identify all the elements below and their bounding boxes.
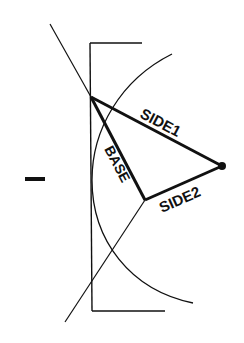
lower-extension-line [65,200,145,322]
triangle-geometry-diagram: SIDE1 SIDE2 BASE [0,0,244,343]
upper-extension-line [50,24,91,97]
side2-label: SIDE2 [156,183,203,216]
tip-dot [218,162,226,170]
arc-curve [92,54,193,303]
minus-sign [25,177,45,181]
base-label: BASE [101,143,133,185]
